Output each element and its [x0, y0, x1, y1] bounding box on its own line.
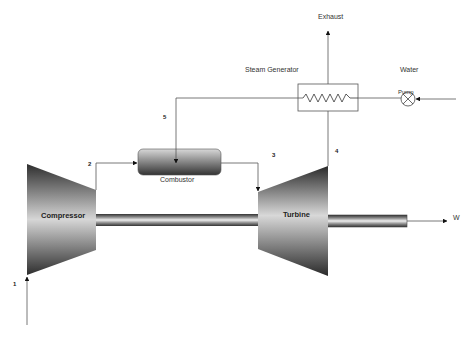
state-point-3: 3 [272, 152, 275, 158]
exhaust-label: Exhaust [318, 13, 343, 20]
water-label: Water [400, 66, 418, 73]
state-point-5: 5 [163, 114, 166, 120]
stream-2-line [96, 163, 137, 190]
state-point-4: 4 [335, 148, 338, 154]
turbine-label: Turbine [283, 210, 310, 219]
compressor-label: Compressor [41, 211, 85, 220]
combustor-label: Combustor [160, 176, 194, 183]
stream-3-line [221, 163, 258, 191]
steam-generator [298, 84, 358, 111]
pump-label: Pump [398, 89, 414, 95]
combustor [138, 149, 221, 175]
state-point-1: 1 [13, 281, 16, 287]
gas-turbine-cycle-diagram: Exhaust Steam Generator Water Pump Combu… [0, 0, 476, 341]
steam-generator-label: Steam Generator [245, 66, 299, 73]
turbine [258, 166, 328, 276]
state-point-2: 2 [88, 161, 91, 167]
shaft [94, 214, 407, 227]
work-label: W [453, 214, 460, 221]
